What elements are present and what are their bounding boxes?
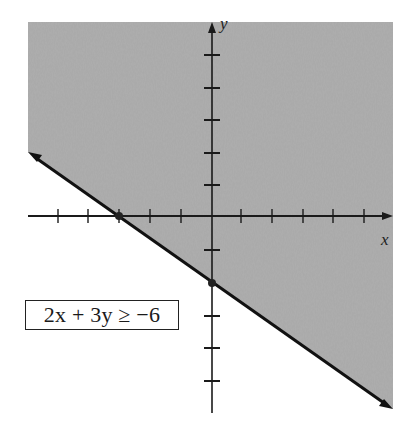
- inequality-label: 2x + 3y ≥ −6: [25, 300, 179, 330]
- inequality-text: 2x + 3y ≥ −6: [44, 302, 160, 328]
- inequality-graph: [0, 0, 413, 430]
- y-intercept-point: [208, 279, 216, 287]
- x-axis-label: x: [381, 230, 389, 250]
- y-axis-label: y: [220, 14, 228, 34]
- x-intercept-point: [115, 212, 123, 220]
